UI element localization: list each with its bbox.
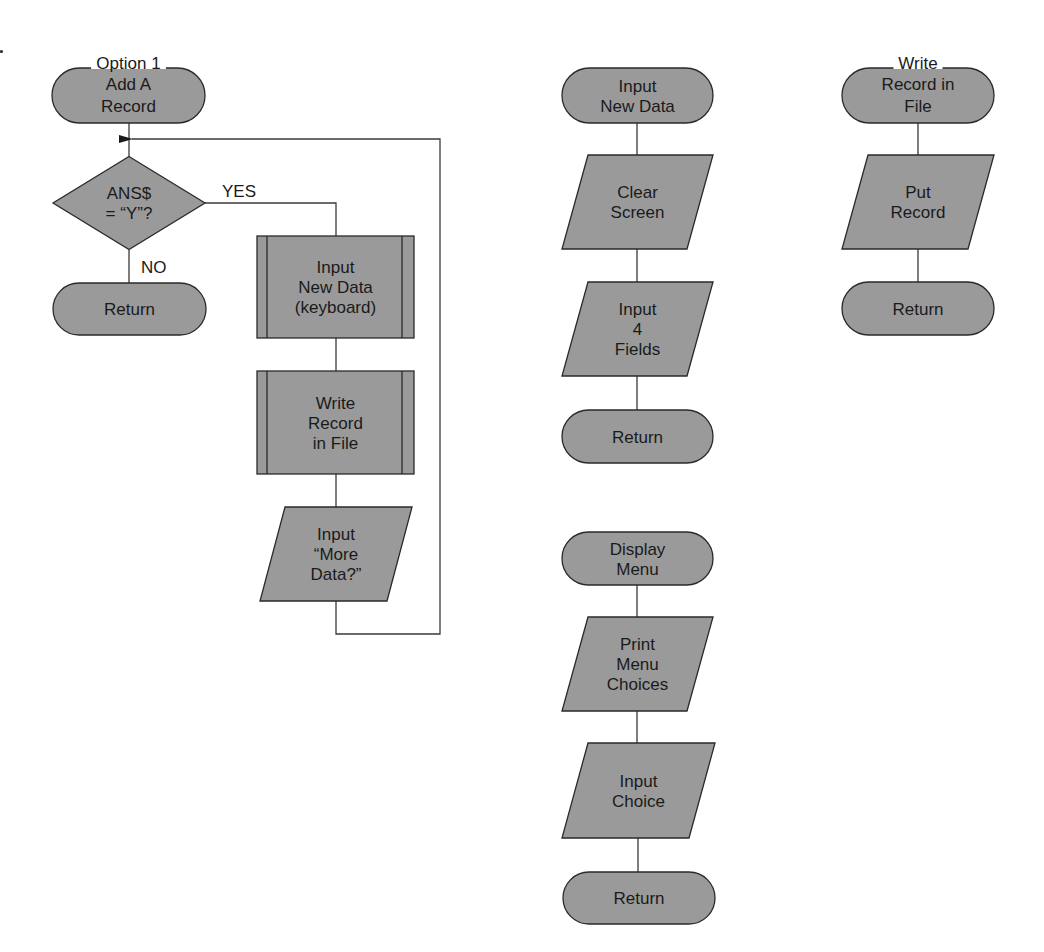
node-label-line: Menu: [616, 560, 659, 579]
node-label-line: Input: [317, 525, 355, 544]
node-label-line: Option 1: [96, 54, 160, 73]
node-label-line: Print: [620, 635, 655, 654]
stray-mark: [0, 50, 3, 53]
node-put-record: PutRecord: [842, 155, 994, 249]
io-parallelogram-shape: [562, 743, 715, 838]
node-label-line: Return: [612, 428, 663, 447]
node-label-line: “More: [314, 545, 358, 564]
connectors: [129, 123, 918, 872]
node-label-line: Display: [610, 540, 666, 559]
node-write-record: WriteRecord inFile: [842, 54, 994, 123]
node-label-line: Choice: [612, 792, 665, 811]
node-input-new-data-call: InputNew Data(keyboard): [257, 236, 414, 338]
node-write-record-call: WriteRecordin File: [257, 371, 414, 474]
node-label-line: Record: [308, 414, 363, 433]
flowchart-diagram: Option 1Add ARecordANS$= “Y”?ReturnInput…: [0, 0, 1044, 952]
node-input-new-data: InputNew Data: [562, 68, 713, 123]
node-label-line: Menu: [616, 655, 659, 674]
node-label-line: Return: [892, 300, 943, 319]
node-label-line: Input: [620, 772, 658, 791]
node-label-line: File: [904, 97, 931, 116]
node-label-line: Data?”: [310, 565, 361, 584]
node-return-1: Return: [53, 283, 206, 335]
node-label-line: Write: [898, 54, 937, 73]
edge-label-no: NO: [141, 258, 167, 277]
decision-shape: [53, 157, 205, 250]
node-label-line: Clear: [617, 183, 658, 202]
node-label-line: Fields: [615, 340, 660, 359]
node-print-menu-choices: PrintMenuChoices: [562, 617, 713, 711]
node-label-line: (keyboard): [295, 298, 376, 317]
node-label-line: Screen: [611, 203, 665, 222]
node-label-line: Record in: [882, 75, 955, 94]
node-label-line: Write: [316, 394, 355, 413]
node-label-line: New Data: [600, 97, 675, 116]
node-label-line: Add A: [106, 75, 152, 94]
node-input-choice: InputChoice: [562, 743, 715, 838]
node-label-line: 4: [633, 320, 642, 339]
node-label-line: Input: [317, 258, 355, 277]
nodes: Option 1Add ARecordANS$= “Y”?ReturnInput…: [52, 54, 994, 924]
node-clear-screen: ClearScreen: [562, 155, 713, 249]
io-parallelogram-shape: [562, 155, 713, 249]
connector-ans-decision-to-input-new-data-call: [205, 203, 336, 236]
node-label-line: Input: [619, 77, 657, 96]
io-parallelogram-shape: [842, 155, 994, 249]
node-label-line: in File: [313, 434, 358, 453]
node-label-line: ANS$: [107, 184, 152, 203]
node-display-menu: DisplayMenu: [562, 532, 713, 585]
node-return-4: Return: [563, 872, 715, 924]
node-label-line: Record: [891, 203, 946, 222]
edge-label-yes: YES: [222, 182, 256, 201]
node-return-3: Return: [842, 282, 994, 335]
node-label-line: New Data: [298, 278, 373, 297]
node-label-line: Record: [101, 97, 156, 116]
node-label-line: Put: [905, 183, 931, 202]
node-return-2: Return: [562, 410, 713, 463]
node-label-line: Return: [613, 889, 664, 908]
node-label-line: = “Y”?: [106, 204, 153, 223]
node-label-line: Choices: [607, 675, 668, 694]
node-add-record: Option 1Add ARecord: [52, 54, 205, 123]
node-ans-decision: ANS$= “Y”?: [53, 157, 205, 250]
node-label-line: Return: [104, 300, 155, 319]
node-input-more-data: Input“MoreData?”: [260, 507, 412, 601]
node-input-4-fields: Input4Fields: [562, 282, 713, 376]
node-label-line: Input: [619, 300, 657, 319]
